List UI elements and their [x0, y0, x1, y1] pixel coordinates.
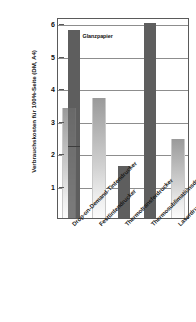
bar-chart-figure: Verbrauchskosten für 100%-Seite (DM, A4)… [0, 0, 196, 322]
y-tick-label: 3 [43, 118, 55, 125]
y-tick-mark [59, 57, 64, 58]
y-tick-label: 4 [43, 86, 55, 93]
y-tick-label: 6 [43, 21, 55, 28]
bar-glanzpapier [144, 23, 156, 218]
gridline [58, 25, 188, 26]
y-tick-mark [59, 24, 64, 25]
bar-glanzpapier-overlap [68, 30, 80, 218]
bar-segment-boundary [68, 146, 80, 147]
y-tick-label: 2 [43, 151, 55, 158]
y-tick-label: 1 [43, 183, 55, 190]
plot-area: Glanzpapier [57, 18, 189, 219]
y-axis-title: Verbrauchskosten für 100%-Seite (DM, A4) [30, 17, 37, 207]
y-tick-label: 5 [43, 53, 55, 60]
y-tick-mark [59, 122, 64, 123]
y-tick-mark [59, 89, 64, 90]
annotation-glanzpapier: Glanzpapier [83, 33, 113, 39]
y-tick-mark [59, 154, 64, 155]
y-tick-mark [59, 187, 64, 188]
